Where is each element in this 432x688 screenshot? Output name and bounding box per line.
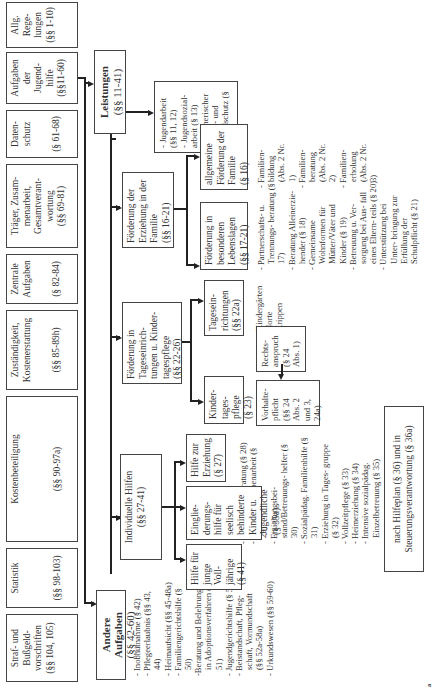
connector xyxy=(126,111,148,113)
list-item: - Jugendsozial- arbeit (§ 13) xyxy=(179,86,200,148)
connector xyxy=(174,462,176,560)
box-eingliederungshilfe: Eingliе- derungs- hilfe für seelisch beh… xyxy=(186,486,262,540)
connector xyxy=(174,208,186,210)
connector xyxy=(162,506,174,508)
box-allgemeine-foerderung: allgemeine Förderung der Familie (§ 16) xyxy=(200,124,248,190)
label: Rechts- anspruch xyxy=(260,335,280,367)
ref: (§§ 1-10) xyxy=(45,7,57,43)
label: Zuständigkeit, Kostenerstattung xyxy=(10,318,32,382)
box-leistungen: Leistungen (§§ 11-41) xyxy=(94,50,126,134)
ref: (§§ 69-81) xyxy=(56,169,68,243)
list-item: - Unterstützung bei Unter- bringung zur … xyxy=(378,180,419,270)
box-hilfe-junge-volljaehrige: Hilfe für junge Voll- jährige (§ 41) xyxy=(186,544,242,590)
label: Hilfe zur Erziehung xyxy=(190,438,212,477)
label: Tagesein- richtungen xyxy=(208,290,230,331)
list-item: -Beratung und Belehrung in Adoptionsverf… xyxy=(193,580,224,676)
ref: (§§ 16-21) xyxy=(161,177,173,243)
connector xyxy=(182,341,190,343)
box-individuelle-hilfen: Individuelle Hilfen (§§ 27-41) xyxy=(120,454,162,560)
list-item: - Heimaufsicht (§§ 45-48a) xyxy=(163,580,173,676)
ref: (§§ 24 Abs. 2 und 3, 24a) xyxy=(281,385,323,421)
list-item: - Pflegeerlaubnis (§§ 43, 44) xyxy=(142,580,162,676)
box-andere-aufgaben: Andere Aufgaben (§§ 42-60) xyxy=(96,590,126,680)
list-item: - Beratung Alleinerzie- hender (§ 18) xyxy=(287,180,307,270)
ref: (§§ 90-97a) xyxy=(52,401,64,537)
connector xyxy=(186,155,194,157)
ref: (§§ 17-21) xyxy=(239,207,251,265)
box-foerderung-tageseinrichtungen: Förderung in Tageseinrich- tungen u. Kin… xyxy=(122,302,182,384)
label: Förderung in Tageseinrich- tungen u. Kin… xyxy=(126,312,171,379)
list-item: - Gemeinsame Wohnformen für Mütter/Väter… xyxy=(307,180,348,270)
ref: (§§ 11-41) xyxy=(111,55,124,129)
label: Individuelle Hilfen xyxy=(124,471,134,544)
list-item: - Urkundswesen (§§ 59-60) xyxy=(265,580,275,676)
list-item: - Intensive sozialpädag. Einzelbetreuung… xyxy=(360,436,380,544)
list-item: - Vollzeitpflege (§ 33) xyxy=(340,436,350,544)
label: Förderung der Erziehung in der Familie xyxy=(126,180,159,243)
list-item: - Jugendarbeit (§§ 11, 12) xyxy=(158,86,179,148)
besondere-lebenslagen-list: - Partnerschafts- u. Trennungs- beratung… xyxy=(256,180,419,270)
box-traeger: Träger, Zusam- menarbeit, Gesamtverant- … xyxy=(6,164,78,248)
label: allgemeine Förderung der Familie xyxy=(204,131,237,185)
label: Aufgaben der Jugend- hilfe xyxy=(10,59,55,96)
box-vorhaltepflicht: Vorhalte- pflicht (§§ 24 Abs. 2 und 3, 2… xyxy=(256,380,320,426)
label: Daten- schutz xyxy=(10,121,32,147)
list-item: - Erziehung in Tages- gruppe (§ 32) xyxy=(320,436,340,544)
list-item: - Beistandschaft, Pfleg- schaft, Vormund… xyxy=(234,580,265,676)
diagram-stage: a Allg. Rege- lungen (§§ 1-10) Aufgaben … xyxy=(0,0,432,688)
label: Straf- und Bußgeld- vorschriften xyxy=(10,625,43,671)
label: Zentrale Aufgaben xyxy=(10,260,32,297)
list-item: - Sozialpädag. Familienhilfe (§ 31) xyxy=(299,436,319,544)
label: Kinder- tages- pflege xyxy=(208,390,241,419)
list-item: - Jugendgerichtshilfe (§ 52) xyxy=(224,580,234,676)
ref: (§§ 98-103) xyxy=(52,553,64,603)
ref: (§§ 22-26) xyxy=(172,307,184,379)
list-item: - Betreuung u. Ver- sorgung bei Aus- fal… xyxy=(348,180,379,270)
box-kindertagespflege: Kinder- tages- pflege (§ 23) xyxy=(204,376,244,424)
connector xyxy=(281,364,283,374)
box-datenschutz: Daten- schutz (§ 61-68) xyxy=(6,110,78,158)
box-straf-bussgeld: Straf- und Bußgeld- vorschriften (§§ 104… xyxy=(6,614,78,682)
andere-aufgaben-list: - Inobhutnahme (§ 42) - Pflegeerlaubnis … xyxy=(132,580,275,676)
ref: (§ 24 Abs. 1) xyxy=(281,331,302,367)
connector xyxy=(190,300,192,402)
connector xyxy=(110,134,112,188)
figure-marker: a xyxy=(426,684,432,687)
connector xyxy=(186,264,194,266)
ref: (§§ 22a) xyxy=(231,285,243,331)
box-foerderung-familie: Förderung der Erziehung in der Familie (… xyxy=(122,172,174,248)
label: Träger, Zusam- menarbeit, Gesamtverant- … xyxy=(10,177,55,235)
label: Eingliе- derungs- hilfe für seelisch beh… xyxy=(190,490,269,535)
label: Hilfe für junge Voll- jährige xyxy=(190,552,235,585)
label: Kostenbeteiligung xyxy=(10,434,20,504)
connector xyxy=(186,156,188,266)
label: Vorhalte- pflicht xyxy=(260,388,280,421)
ref: (§ 35a) xyxy=(271,491,283,535)
list-item: - Inobhutnahme (§ 42) xyxy=(132,580,142,676)
label: nach Hilfeplan (§ 36) und in Steuerungsv… xyxy=(392,425,414,552)
title: Leistungen xyxy=(98,66,110,118)
box-zentrale-aufgaben: Zentrale Aufgaben (§ 82-84) xyxy=(6,254,78,304)
box-hilfeplan: nach Hilfeplan (§ 36) und in Steuerungsv… xyxy=(384,406,424,572)
ref: (§ 61-68) xyxy=(51,115,63,153)
list-item: - Partnerschafts- u. Trennungs- beratung… xyxy=(256,180,287,270)
box-zustaendigkeit: Zuständigkeit, Kostenerstattung (§§ 85-8… xyxy=(6,310,78,390)
box-hilfe-zur-erziehung: Hilfe zur Erziehung (§ 27) xyxy=(186,434,226,482)
ref: (§§ 104, 105) xyxy=(45,619,57,677)
list-item: - Heimerziehung (§ 34) xyxy=(350,436,360,544)
list-item: - Familiengerichtshilfe (§ 50) xyxy=(173,580,193,676)
ref: (§ 27) xyxy=(213,439,225,477)
label: Förderung in besonderen Lebenslagen xyxy=(204,216,237,265)
ref: (§ 23) xyxy=(243,381,255,419)
ref: (§ 82-84) xyxy=(51,259,63,299)
ref: (§ 41) xyxy=(236,549,248,585)
box-aufgaben-jugendhilfe: Aufgaben der Jugend- hilfe (§§11-60) xyxy=(6,52,78,104)
box-kostenbeteiligung: Kostenbeteiligung (§§ 90-97a) xyxy=(6,396,78,542)
label: Statistik xyxy=(10,562,20,593)
ref: (§§ 85-89h) xyxy=(51,315,63,385)
box-besondere-lebenslagen: Förderung in besonderen Lebenslagen (§§ … xyxy=(200,202,248,270)
connector xyxy=(84,80,86,604)
ref: (§§ 27-41) xyxy=(136,459,148,555)
box-allg-regelungen: Allg. Rege- lungen (§§ 1-10) xyxy=(6,2,78,48)
title: Andere Aufgaben xyxy=(100,612,124,658)
